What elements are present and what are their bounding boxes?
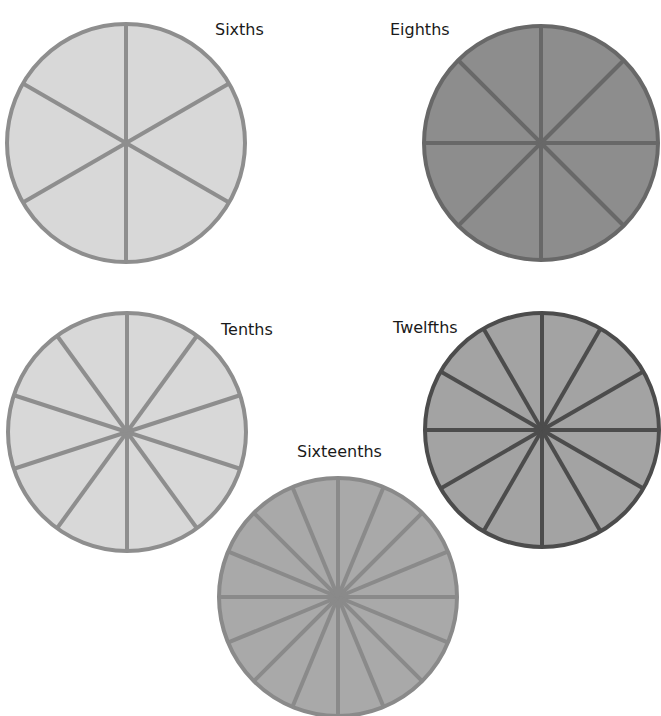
fraction-circle-sixteenths [219,478,457,716]
label-sixths: Sixths [215,22,264,38]
label-eighths: Eighths [390,22,450,38]
fraction-circle-tenths [8,313,246,551]
fraction-circle-twelfths [425,313,659,547]
fraction-circles-svg [0,0,661,716]
fraction-circles-canvas [0,0,661,716]
label-sixteenths: Sixteenths [297,444,382,460]
label-twelfths: Twelfths [393,320,458,336]
fraction-circle-eighths [424,26,658,260]
fraction-circle-sixths [7,24,245,262]
label-tenths: Tenths [221,322,273,338]
